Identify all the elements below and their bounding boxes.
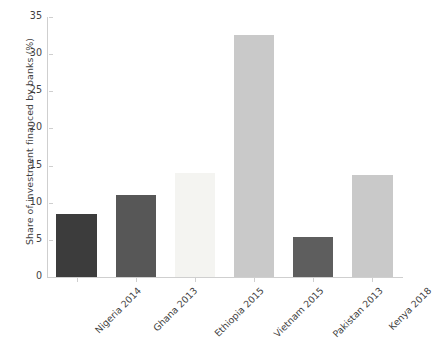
x-tick-mark — [195, 278, 196, 282]
y-tick-label: 15 — [12, 159, 42, 170]
x-tick-mark — [254, 278, 255, 282]
y-tick: 30 — [5, 54, 53, 55]
bar — [234, 35, 274, 277]
chart-title-cropped — [60, 0, 410, 3]
bar — [352, 175, 392, 278]
y-tick-mark — [49, 166, 53, 167]
bar — [293, 237, 333, 277]
x-tick-mark — [77, 278, 78, 282]
y-tick: 5 — [5, 240, 53, 241]
y-tick-mark — [49, 128, 53, 129]
y-tick: 15 — [5, 166, 53, 167]
y-axis-spine — [47, 17, 48, 278]
y-tick: 20 — [5, 128, 53, 129]
x-tick-label: Vietnam 2015 — [271, 285, 325, 339]
y-tick-label: 5 — [12, 233, 42, 244]
bar — [175, 173, 215, 277]
y-tick-mark — [49, 91, 53, 92]
y-tick: 35 — [5, 17, 53, 18]
y-tick-label: 30 — [12, 47, 42, 58]
y-tick-mark — [49, 17, 53, 18]
x-axis-spine — [47, 277, 403, 278]
x-tick-mark — [313, 278, 314, 282]
x-tick-mark — [372, 278, 373, 282]
y-tick: 10 — [5, 203, 53, 204]
y-axis-label: Share of investment financed by banks (%… — [24, 27, 35, 257]
y-tick-label: 20 — [12, 121, 42, 132]
y-tick: 25 — [5, 91, 53, 92]
x-tick-label: Pakistan 2013 — [331, 285, 386, 340]
y-tick-mark — [49, 54, 53, 55]
y-tick-mark — [49, 203, 53, 204]
x-tick-mark — [136, 278, 137, 282]
x-tick-label: Ethiopia 2015 — [212, 285, 266, 339]
y-tick-mark — [49, 277, 53, 278]
y-tick-label: 35 — [12, 10, 42, 21]
x-tick-label: Ghana 2013 — [151, 285, 199, 333]
y-tick-label: 10 — [12, 196, 42, 207]
bar — [56, 214, 96, 277]
x-tick-label: Kenya 2018 — [387, 285, 434, 332]
bar — [116, 195, 156, 277]
x-tick-label: Nigeria 2014 — [92, 285, 142, 335]
y-tick: 0 — [5, 277, 53, 278]
y-tick-label: 0 — [12, 270, 42, 281]
y-tick-label: 25 — [12, 84, 42, 95]
plot-area: 05101520253035 Nigeria 2014Ghana 2013Eth… — [47, 17, 402, 277]
y-tick-mark — [49, 240, 53, 241]
